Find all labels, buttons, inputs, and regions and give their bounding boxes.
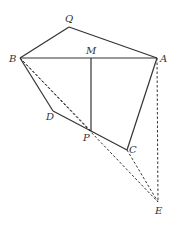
geometry-diagram: Q B M A D P C E bbox=[0, 0, 177, 227]
label-A: A bbox=[159, 53, 167, 64]
segment-QA bbox=[69, 27, 157, 58]
dashed-segment-BE bbox=[20, 58, 158, 202]
label-M: M bbox=[85, 45, 97, 56]
label-E: E bbox=[154, 205, 163, 216]
segment-CA bbox=[127, 58, 157, 150]
dashed-segment-AE bbox=[157, 58, 158, 202]
dashed-segment-CE bbox=[127, 150, 158, 202]
segment-QB bbox=[20, 27, 69, 58]
segment-PC bbox=[91, 131, 127, 150]
label-B: B bbox=[8, 53, 16, 64]
label-P: P bbox=[82, 132, 90, 143]
label-D: D bbox=[45, 111, 54, 122]
label-C: C bbox=[129, 144, 137, 155]
segment-DP bbox=[53, 111, 91, 131]
point-labels: Q B M A D P C E bbox=[8, 13, 167, 216]
label-Q: Q bbox=[65, 13, 73, 24]
dashed-segment-BP bbox=[20, 58, 91, 131]
dashed-edges bbox=[20, 58, 158, 202]
segment-BD bbox=[20, 58, 53, 111]
